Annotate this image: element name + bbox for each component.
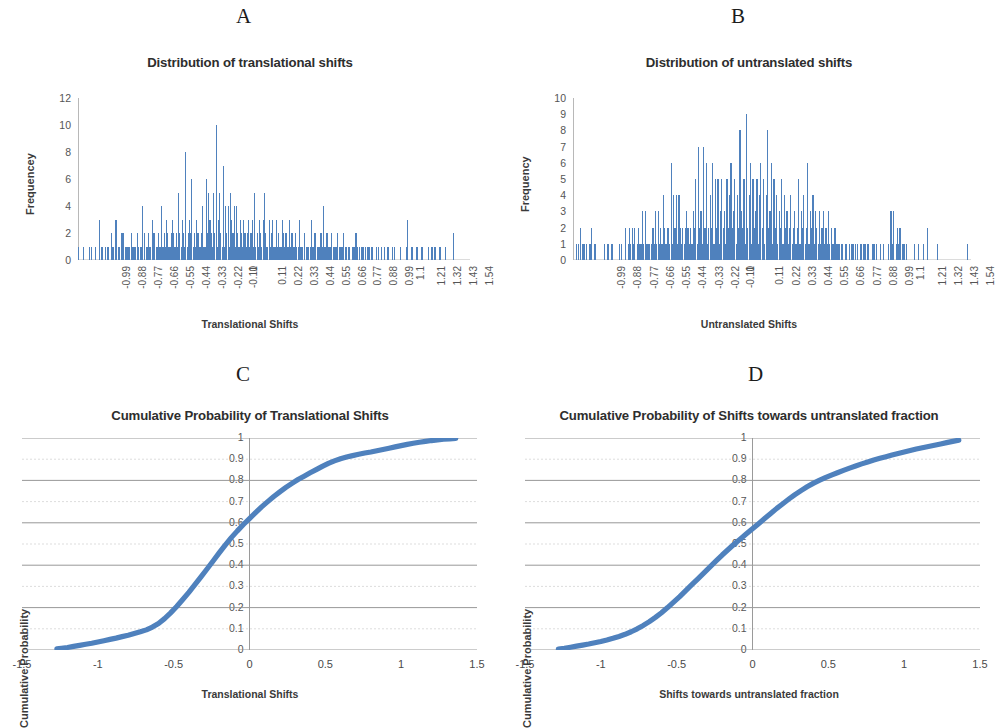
histogram-bar [240,220,241,261]
histogram-bar [406,247,407,261]
y-tick-label: 6 [533,158,566,169]
histogram-bar [611,244,612,260]
histogram-bar [691,244,692,260]
histogram-bar [771,163,772,260]
histogram-bar [739,130,740,260]
histogram-bar [248,220,249,261]
histogram-bar [661,244,662,260]
y-tick-label: 4 [533,190,566,201]
y-tick-label: 0 [38,255,71,266]
histogram-bar [729,195,730,260]
histogram-bar [255,247,256,261]
histogram-bar [857,244,858,260]
histogram-bar [216,125,217,260]
histogram-bar [819,211,820,260]
histogram-bar [838,244,839,260]
histogram-bar [113,247,114,261]
histogram-bar [660,228,661,260]
histogram-bar [172,220,173,261]
histogram-bar [766,195,767,260]
histogram-bar [821,228,822,260]
x-tick-label: -1 [576,659,626,670]
histogram-bar [278,233,279,260]
y-tick-label: 7 [533,142,566,153]
x-tick-label: -0.88 [633,266,643,289]
histogram-bar [260,233,261,260]
histogram-bar [107,247,108,261]
histogram-bar [751,244,752,260]
y-axis-title-b: Frequency [519,156,531,212]
histogram-bar [231,220,232,261]
x-tick-label: 0.22 [294,266,304,285]
histogram-bar [189,220,190,261]
histogram-bar [243,220,244,261]
histogram-bar [786,211,787,260]
y-tick-label: 9 [533,109,566,120]
histogram-bar [805,244,806,260]
histogram-bar [267,247,268,261]
histogram-bar [421,247,422,261]
histogram-bar [697,244,698,260]
histogram-bar [228,206,229,260]
histogram-bar [737,195,738,260]
histogram-bar [412,247,413,261]
x-tick-label: 0.66 [857,266,867,285]
histogram-bar [686,211,687,260]
histogram-bar [353,247,354,261]
histogram-bar [896,244,897,260]
histogram-bar [651,244,652,260]
histogram-bar [182,220,183,261]
histogram-bar [863,244,864,260]
histogram-bar [171,233,172,260]
histogram-bar [693,211,694,260]
histogram-bar [348,247,349,261]
histogram-bar [868,244,869,260]
x-tick-label: 1.21 [438,266,448,285]
histogram-bar [83,247,84,261]
x-tick-label: 1.54 [987,266,997,285]
histogram-bar [201,233,202,260]
histogram-bar [923,244,924,260]
histogram-bar [715,179,716,260]
histogram-bar [371,247,372,261]
histogram-bar [341,247,342,261]
histogram-bar [207,233,208,260]
histogram-bar [784,195,785,260]
x-tick-label: -0.55 [186,266,196,289]
histogram-bar [595,244,596,260]
histogram-bar [860,244,861,260]
histogram-bar [188,233,189,260]
histogram-bar [772,244,773,260]
histogram-bar [730,163,731,260]
histogram-bar [244,233,245,260]
histogram-bar [91,247,92,261]
histogram-bar [690,228,691,260]
histogram-bar [264,193,265,261]
histogram-bar [725,244,726,260]
histogram-bar [330,247,331,261]
x-tick-label: -0.44 [698,266,708,289]
histogram-bar [319,247,320,261]
histogram-bar [336,247,337,261]
x-tick-label: 0.44 [824,266,834,285]
histogram-bar [165,247,166,261]
histogram-bar [700,211,701,260]
histogram-bar [642,211,643,260]
histogram-bar [699,228,700,260]
histogram-bar [652,228,653,260]
histogram-bar [167,233,168,260]
histogram-bar [317,247,318,261]
histogram-bar [612,244,613,260]
chart-title-d: Cumulative Probability of Shifts towards… [499,408,999,423]
histogram-bar [745,244,746,260]
histogram-bar [206,179,207,260]
histogram-bar [112,247,113,261]
histogram-bar [159,247,160,261]
histogram-bar [967,244,968,260]
histogram-bar [269,220,270,261]
histogram-bar [641,244,642,260]
histogram-bar [814,244,815,260]
histogram-bar [914,244,915,260]
histogram-bar [831,228,832,260]
